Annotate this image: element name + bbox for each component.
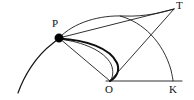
line-P-to-T bbox=[59, 9, 174, 38]
diagram-canvas bbox=[0, 0, 194, 100]
point-label-O: O bbox=[105, 84, 113, 95]
geometry-diagram: P T O K bbox=[0, 0, 194, 100]
point-label-P: P bbox=[52, 18, 58, 29]
line-O-to-T bbox=[110, 9, 174, 81]
point-label-T: T bbox=[176, 0, 183, 11]
arc-to-K bbox=[120, 16, 173, 81]
point-label-K: K bbox=[169, 84, 177, 95]
arc-thick-P-to-O bbox=[59, 39, 118, 82]
point-P-dot bbox=[55, 34, 63, 42]
arc-big-circle bbox=[18, 39, 59, 94]
